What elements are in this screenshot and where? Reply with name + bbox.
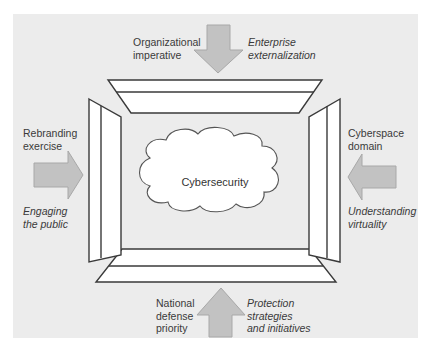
top-frame-panel — [108, 80, 322, 113]
left-frame-panel — [89, 99, 121, 262]
arrow-down-icon — [194, 25, 243, 73]
bottom-right-label: Protection strategies and initiatives — [247, 297, 311, 335]
label-line: Protection — [247, 297, 311, 310]
label-line: Organizational — [133, 36, 201, 49]
label-line: National — [156, 297, 195, 310]
label-line: strategies — [247, 310, 311, 323]
cloud-shape — [140, 127, 279, 211]
label-line: virtuality — [348, 218, 416, 231]
bottom-frame-panel — [96, 249, 336, 282]
arrow-up-icon — [197, 288, 245, 337]
arrow-left-icon — [348, 154, 396, 200]
label-line: Enterprise — [248, 36, 316, 49]
top-right-label: Enterprise externalization — [248, 36, 316, 61]
label-line: Rebranding — [23, 127, 77, 140]
left-bottom-label: Engaging the public — [23, 205, 68, 230]
label-line: exercise — [23, 140, 77, 153]
label-line: externalization — [248, 49, 316, 62]
label-line: Understanding — [348, 205, 416, 218]
right-frame-panel — [309, 99, 340, 262]
label-line: Engaging — [23, 205, 68, 218]
arrow-right-icon — [34, 151, 83, 199]
label-line: and initiatives — [247, 322, 311, 335]
bottom-left-label: National defense priority — [156, 297, 195, 335]
right-bottom-label: Understanding virtuality — [348, 205, 416, 230]
label-line: domain — [348, 140, 404, 153]
label-line: defense — [156, 310, 195, 323]
center-label: Cybersecurity — [165, 176, 265, 188]
left-top-label: Rebranding exercise — [23, 127, 77, 152]
label-line: the public — [23, 218, 68, 231]
label-line: imperative — [133, 49, 201, 62]
top-left-label: Organizational imperative — [133, 36, 201, 61]
label-line: Cyberspace — [348, 127, 404, 140]
label-line: priority — [156, 322, 195, 335]
right-top-label: Cyberspace domain — [348, 127, 404, 152]
